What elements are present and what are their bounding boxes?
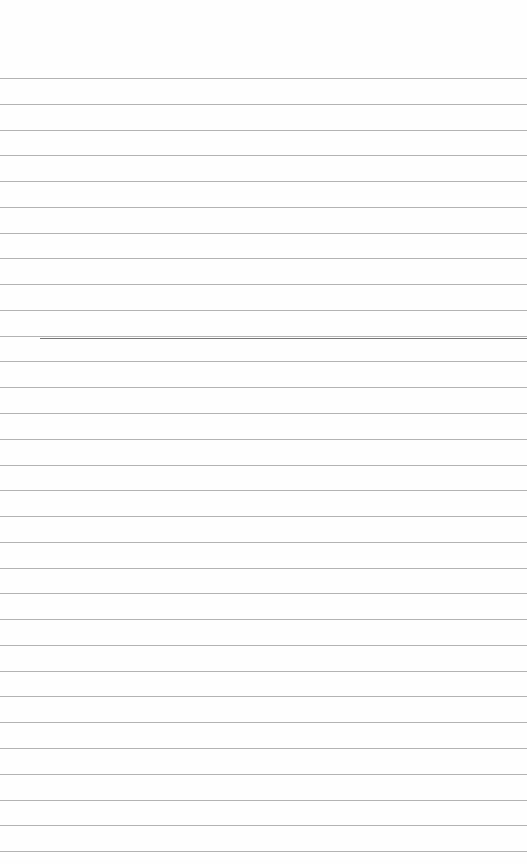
ruled-line	[0, 800, 527, 801]
ruled-line	[0, 336, 527, 337]
ruled-line	[0, 593, 527, 594]
ruled-line	[0, 130, 527, 131]
ruled-line	[0, 155, 527, 156]
ruled-line	[0, 413, 527, 414]
ruled-line	[0, 258, 527, 259]
ruled-line	[0, 645, 527, 646]
ruled-line	[0, 439, 527, 440]
ruled-line	[0, 568, 527, 569]
ruled-line	[0, 748, 527, 749]
ruled-line	[0, 104, 527, 105]
ruled-line	[0, 233, 527, 234]
ruled-line	[0, 284, 527, 285]
ruled-line	[0, 825, 527, 826]
ruled-line	[0, 207, 527, 208]
ruled-line	[0, 696, 527, 697]
ruled-line	[0, 465, 527, 466]
ruled-line	[0, 619, 527, 620]
ruled-line	[0, 310, 527, 311]
ruled-line	[0, 542, 527, 543]
ruled-line	[0, 722, 527, 723]
ruled-line	[0, 490, 527, 491]
ruled-line	[0, 181, 527, 182]
ruled-line	[0, 671, 527, 672]
ruled-line	[0, 78, 527, 79]
ruled-line	[0, 361, 527, 362]
ruled-line	[0, 516, 527, 517]
ruled-line	[0, 387, 527, 388]
ruled-line	[0, 774, 527, 775]
lined-paper-page	[0, 0, 527, 864]
ruled-line	[0, 851, 527, 852]
pen-stroke-mark	[40, 338, 527, 339]
